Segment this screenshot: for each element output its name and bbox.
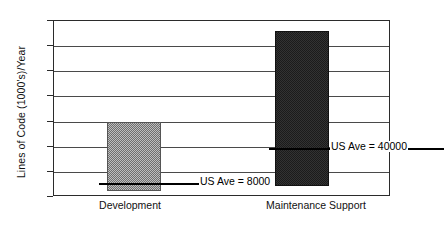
- annotation-label-us-ave-8000: US Ave = 8000: [199, 176, 271, 187]
- plot-area: [53, 20, 390, 196]
- gridline-80: [54, 96, 389, 97]
- bar-development: [107, 122, 161, 191]
- bar-maintenance-support: [275, 31, 329, 186]
- gridline-120: [54, 46, 389, 47]
- scan-caption-remnant: [58, 219, 288, 225]
- x-tick-label-development: Development: [78, 200, 182, 211]
- x-tick-label-maintenance-support: Maintenance Support: [240, 200, 392, 211]
- y-tick-mark-0: [47, 196, 53, 197]
- y-axis-title: Lines of Code (1000's)/Year: [15, 17, 27, 207]
- gridline-100: [54, 71, 389, 72]
- gridline-20: [54, 172, 389, 173]
- annotation-label-us-ave-40000: US Ave = 40000: [330, 141, 408, 152]
- gridline-60: [54, 122, 389, 123]
